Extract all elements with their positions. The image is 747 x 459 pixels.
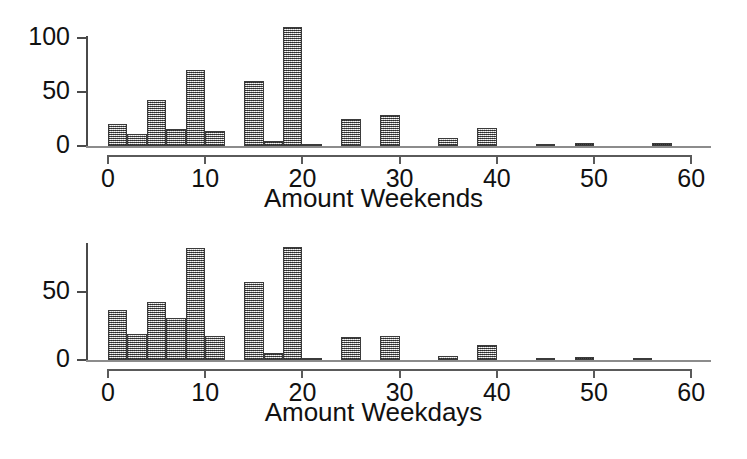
bar: [380, 115, 399, 146]
x-baseline-weekdays: [86, 360, 711, 362]
bar: [147, 302, 166, 360]
bar: [341, 337, 360, 360]
bar: [205, 131, 224, 146]
x-baseline-weekends: [86, 146, 711, 148]
bar: [108, 310, 127, 360]
x-tick-weekends-10: [204, 155, 206, 164]
bar: [127, 134, 146, 146]
x-tick-weekdays-0: [107, 369, 109, 378]
bar: [264, 353, 283, 360]
bar: [166, 129, 185, 146]
panel-weekends: 050100 0102030405060 Amount Weekends: [0, 0, 747, 225]
bar: [205, 336, 224, 360]
plot-area-weekends: 050100 0102030405060: [0, 0, 747, 190]
bar: [244, 282, 263, 360]
panel-weekdays: 050 0102030405060 Amount Weekdays: [0, 225, 747, 459]
x-tick-weekdays-50: [593, 369, 595, 378]
bar-series-weekdays: [0, 225, 747, 360]
x-tick-weekends-40: [496, 155, 498, 164]
bar: [166, 318, 185, 360]
x-tick-weekdays-60: [690, 369, 692, 378]
bar: [283, 247, 302, 360]
bar: [438, 138, 457, 146]
plot-area-weekdays: 050 0102030405060: [0, 225, 747, 415]
x-tick-weekends-20: [301, 155, 303, 164]
bar: [477, 345, 496, 360]
bar: [341, 119, 360, 146]
x-tick-weekdays-30: [399, 369, 401, 378]
bar-series-weekends: [0, 0, 747, 146]
x-axis-title-weekends: Amount Weekends: [0, 183, 747, 213]
histogram-figure: 050100 0102030405060 Amount Weekends 050…: [0, 0, 747, 459]
bar: [108, 124, 127, 146]
bar: [186, 70, 205, 146]
x-tick-weekends-60: [690, 155, 692, 164]
x-tick-weekdays-40: [496, 369, 498, 378]
bar: [127, 334, 146, 360]
bar: [147, 100, 166, 146]
bar: [477, 128, 496, 146]
bar: [244, 81, 263, 146]
bar: [186, 248, 205, 360]
x-tick-weekends-0: [107, 155, 109, 164]
bar: [380, 336, 399, 360]
x-tick-weekdays-20: [301, 369, 303, 378]
x-axis-title-weekdays: Amount Weekdays: [0, 397, 747, 427]
x-tick-weekdays-10: [204, 369, 206, 378]
x-tick-weekends-30: [399, 155, 401, 164]
bar: [283, 27, 302, 146]
x-tick-weekends-50: [593, 155, 595, 164]
